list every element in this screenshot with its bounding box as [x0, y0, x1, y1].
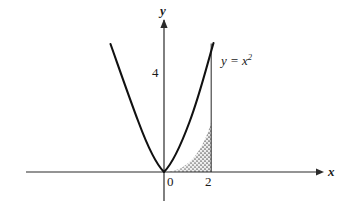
origin-label: 0 [167, 175, 174, 188]
curve-label-y: y [221, 53, 227, 68]
plot-canvas [0, 0, 349, 207]
y-tick-label-4: 4 [152, 66, 159, 79]
shaded-region [164, 44, 211, 173]
y-axis-label: y [160, 4, 166, 17]
x-axis [26, 168, 324, 175]
x-axis-label: x [328, 165, 335, 178]
curve-label-exponent: 2 [248, 52, 252, 62]
x-tick-label-2: 2 [205, 175, 212, 188]
curve-label-equals: = [230, 53, 239, 68]
curve-equation-label: y = x2 [221, 54, 252, 67]
figure-container: y x 4 0 2 y = x2 [0, 0, 349, 207]
